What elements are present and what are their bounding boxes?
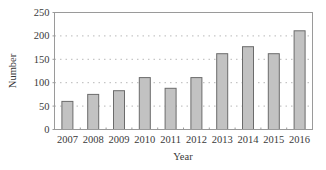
bar-2014 <box>243 47 254 130</box>
bar-2012 <box>191 78 202 130</box>
bar-2015 <box>268 54 279 130</box>
y-axis-title: Number <box>7 53 18 88</box>
x-tick-label: 2016 <box>289 134 310 145</box>
y-tick-label: 50 <box>39 101 50 112</box>
x-tick-label: 2010 <box>134 134 155 145</box>
y-axis-ticks: 050100150200250 <box>34 7 55 135</box>
y-tick-label: 200 <box>34 30 50 41</box>
x-axis-ticks: 2007200820092010201120122013201420152016 <box>57 128 310 145</box>
x-tick-label: 2009 <box>109 134 130 145</box>
bar-2007 <box>62 101 73 129</box>
bar-chart: 050100150200250 200720082009201020112012… <box>0 0 326 170</box>
x-axis-title: Year <box>173 151 193 162</box>
bar-2011 <box>165 88 176 129</box>
bar-2008 <box>88 94 99 129</box>
bar-2010 <box>139 78 150 130</box>
y-tick-label: 250 <box>34 7 50 18</box>
y-tick-label: 100 <box>34 77 50 88</box>
x-tick-label: 2012 <box>186 134 207 145</box>
x-tick-label: 2007 <box>57 134 78 145</box>
bars <box>62 31 305 130</box>
x-tick-label: 2015 <box>263 134 284 145</box>
y-tick-label: 150 <box>34 54 50 65</box>
x-tick-label: 2013 <box>212 134 233 145</box>
x-tick-label: 2011 <box>160 134 181 145</box>
bar-2016 <box>294 31 305 130</box>
y-tick-label: 0 <box>44 124 49 135</box>
bar-2009 <box>114 91 125 130</box>
x-tick-label: 2008 <box>83 134 104 145</box>
x-tick-label: 2014 <box>238 134 260 145</box>
bar-2013 <box>217 54 228 130</box>
